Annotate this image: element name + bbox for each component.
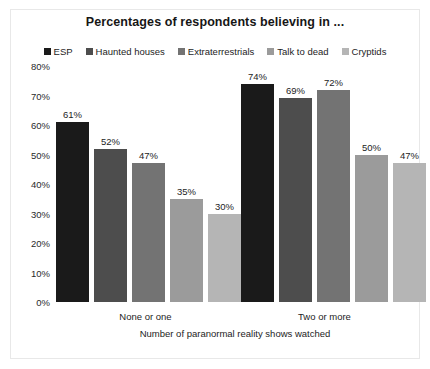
bar[interactable]	[393, 163, 426, 302]
bar[interactable]	[279, 98, 312, 302]
y-axis-tick-label: 30%	[31, 208, 50, 219]
bar[interactable]	[317, 90, 350, 302]
legend-label: Haunted houses	[96, 46, 165, 57]
legend-label: Cryptids	[352, 46, 387, 57]
bar-slot: 47%	[393, 66, 426, 302]
bar[interactable]	[56, 122, 89, 302]
x-axis-category-label: None or one	[56, 311, 235, 322]
bar-value-label: 30%	[208, 201, 241, 212]
chart-title: Percentages of respondents believing in …	[0, 15, 430, 29]
chart-legend: ESPHaunted housesExtraterrestrialsTalk t…	[0, 46, 430, 57]
legend-item[interactable]: Cryptids	[342, 46, 387, 57]
bar[interactable]	[241, 84, 274, 302]
bar[interactable]	[94, 149, 127, 302]
x-axis-category-label: Two or more	[235, 311, 414, 322]
bar-groups: 61%52%47%35%30%74%69%72%50%47%	[56, 66, 414, 302]
bar-slot: 61%	[56, 66, 89, 302]
bar-value-label: 50%	[355, 142, 388, 153]
bar-slot: 30%	[208, 66, 241, 302]
x-axis-title: Number of paranormal reality shows watch…	[56, 328, 414, 339]
y-axis-tick-label: 70%	[31, 90, 50, 101]
bar-value-label: 52%	[94, 136, 127, 147]
legend-swatch-icon	[44, 48, 51, 55]
bar[interactable]	[208, 214, 241, 303]
bar-value-label: 74%	[241, 71, 274, 82]
y-axis: 80%70%60%50%40%30%20%10%0%	[10, 66, 54, 306]
bar-slot: 52%	[94, 66, 127, 302]
bar-group: 61%52%47%35%30%	[56, 66, 241, 302]
bar-value-label: 47%	[393, 150, 426, 161]
legend-item[interactable]: Extraterrestrials	[178, 46, 255, 57]
legend-label: Talk to dead	[277, 46, 328, 57]
bar[interactable]	[170, 199, 203, 302]
y-axis-tick-label: 0%	[36, 297, 50, 308]
legend-label: Extraterrestrials	[188, 46, 255, 57]
bar-slot: 74%	[241, 66, 274, 302]
bar-value-label: 61%	[56, 109, 89, 120]
legend-swatch-icon	[178, 48, 185, 55]
y-axis-tick-label: 60%	[31, 120, 50, 131]
y-axis-tick-label: 10%	[31, 267, 50, 278]
bar-value-label: 47%	[132, 150, 165, 161]
plot-wrapper: 80%70%60%50%40%30%20%10%0% 61%52%47%35%3…	[10, 66, 420, 306]
bar-value-label: 72%	[317, 77, 350, 88]
y-axis-tick-label: 20%	[31, 238, 50, 249]
bar-value-label: 35%	[170, 186, 203, 197]
bar-value-label: 69%	[279, 85, 312, 96]
chart-container: Percentages of respondents believing in …	[0, 0, 430, 369]
legend-swatch-icon	[267, 48, 274, 55]
legend-item[interactable]: ESP	[44, 46, 73, 57]
bar-group: 74%69%72%50%47%	[241, 66, 426, 302]
legend-swatch-icon	[342, 48, 349, 55]
bar-slot: 69%	[279, 66, 312, 302]
bar-slot: 47%	[132, 66, 165, 302]
bar[interactable]	[132, 163, 165, 302]
bar-slot: 35%	[170, 66, 203, 302]
y-axis-tick-label: 50%	[31, 149, 50, 160]
x-axis-categories: None or oneTwo or more	[56, 311, 414, 322]
legend-item[interactable]: Talk to dead	[267, 46, 328, 57]
legend-label: ESP	[54, 46, 73, 57]
y-axis-tick-label: 40%	[31, 179, 50, 190]
legend-item[interactable]: Haunted houses	[86, 46, 165, 57]
y-axis-tick-label: 80%	[31, 61, 50, 72]
plot-area: 61%52%47%35%30%74%69%72%50%47%	[56, 66, 414, 302]
bar-slot: 50%	[355, 66, 388, 302]
legend-swatch-icon	[86, 48, 93, 55]
bar-slot: 72%	[317, 66, 350, 302]
bar[interactable]	[355, 155, 388, 303]
